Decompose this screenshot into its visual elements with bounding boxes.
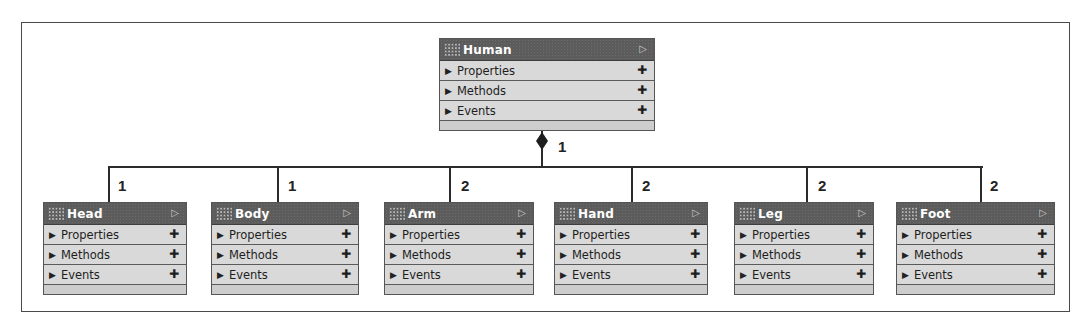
expand-icon[interactable]: ▶	[49, 230, 56, 240]
class-hand[interactable]: Hand ▷ ▶Properties✚ ▶Methods✚ ▶Events✚	[554, 202, 708, 295]
add-icon[interactable]: ✚	[690, 247, 700, 261]
collapse-icon[interactable]: ▷	[343, 207, 351, 218]
expand-icon[interactable]: ▶	[390, 250, 397, 260]
collapse-icon[interactable]: ▷	[518, 207, 526, 218]
section-events[interactable]: ▶Events✚	[897, 265, 1054, 285]
drag-grip-icon[interactable]	[739, 207, 755, 220]
section-label: Properties	[402, 228, 460, 242]
section-methods[interactable]: ▶Methods✚	[212, 245, 358, 265]
add-icon[interactable]: ✚	[637, 103, 647, 117]
expand-icon[interactable]: ▶	[740, 270, 747, 280]
add-icon[interactable]: ✚	[169, 267, 179, 281]
add-icon[interactable]: ✚	[856, 267, 866, 281]
class-header[interactable]: Hand ▷	[555, 203, 707, 225]
add-icon[interactable]: ✚	[516, 247, 526, 261]
add-icon[interactable]: ✚	[341, 247, 351, 261]
section-events[interactable]: ▶Events✚	[212, 265, 358, 285]
drag-grip-icon[interactable]	[444, 43, 460, 56]
class-human[interactable]: Human ▷ ▶Properties✚ ▶Methods✚ ▶Events✚	[439, 38, 655, 131]
section-label: Methods	[402, 248, 451, 262]
expand-icon[interactable]: ▶	[217, 230, 224, 240]
collapse-icon[interactable]: ▷	[1039, 207, 1047, 218]
class-head[interactable]: Head ▷ ▶Properties✚ ▶Methods✚ ▶Events✚	[43, 202, 187, 295]
section-events[interactable]: ▶Events✚	[385, 265, 533, 285]
add-icon[interactable]: ✚	[516, 267, 526, 281]
add-icon[interactable]: ✚	[169, 247, 179, 261]
add-icon[interactable]: ✚	[1037, 227, 1047, 241]
class-header[interactable]: Foot ▷	[897, 203, 1054, 225]
expand-icon[interactable]: ▶	[740, 250, 747, 260]
expand-icon[interactable]: ▶	[560, 250, 567, 260]
add-icon[interactable]: ✚	[690, 227, 700, 241]
add-icon[interactable]: ✚	[856, 227, 866, 241]
drag-grip-icon[interactable]	[216, 207, 232, 220]
section-properties[interactable]: ▶Properties✚	[555, 225, 707, 245]
composition-diamond-icon	[536, 132, 548, 150]
class-header[interactable]: Leg ▷	[735, 203, 873, 225]
add-icon[interactable]: ✚	[341, 267, 351, 281]
section-events[interactable]: ▶Events✚	[440, 101, 654, 121]
add-icon[interactable]: ✚	[1037, 247, 1047, 261]
section-methods[interactable]: ▶Methods✚	[897, 245, 1054, 265]
expand-icon[interactable]: ▶	[560, 230, 567, 240]
section-properties[interactable]: ▶Properties✚	[897, 225, 1054, 245]
expand-icon[interactable]: ▶	[49, 250, 56, 260]
expand-icon[interactable]: ▶	[902, 270, 909, 280]
hand-multiplicity: 2	[642, 177, 650, 194]
add-icon[interactable]: ✚	[637, 63, 647, 77]
expand-icon[interactable]: ▶	[445, 106, 452, 116]
section-label: Events	[229, 268, 268, 282]
drag-grip-icon[interactable]	[559, 207, 575, 220]
collapse-icon[interactable]: ▷	[171, 207, 179, 218]
class-body[interactable]: Body ▷ ▶Properties✚ ▶Methods✚ ▶Events✚	[211, 202, 359, 295]
section-properties[interactable]: ▶Properties✚	[735, 225, 873, 245]
expand-icon[interactable]: ▶	[560, 270, 567, 280]
drag-grip-icon[interactable]	[901, 207, 917, 220]
collapse-icon[interactable]: ▷	[858, 207, 866, 218]
expand-icon[interactable]: ▶	[902, 230, 909, 240]
section-label: Methods	[229, 248, 278, 262]
body-multiplicity: 1	[288, 177, 296, 194]
expand-icon[interactable]: ▶	[217, 250, 224, 260]
class-leg[interactable]: Leg ▷ ▶Properties✚ ▶Methods✚ ▶Events✚	[734, 202, 874, 295]
section-properties[interactable]: ▶Properties✚	[212, 225, 358, 245]
section-properties[interactable]: ▶Properties✚	[44, 225, 186, 245]
section-methods[interactable]: ▶Methods✚	[385, 245, 533, 265]
expand-icon[interactable]: ▶	[390, 230, 397, 240]
class-footer	[555, 285, 707, 294]
section-methods[interactable]: ▶Methods✚	[44, 245, 186, 265]
add-icon[interactable]: ✚	[341, 227, 351, 241]
class-header[interactable]: Human ▷	[440, 39, 654, 61]
collapse-icon[interactable]: ▷	[692, 207, 700, 218]
section-properties[interactable]: ▶Properties✚	[385, 225, 533, 245]
add-icon[interactable]: ✚	[856, 247, 866, 261]
add-icon[interactable]: ✚	[169, 227, 179, 241]
section-methods[interactable]: ▶Methods✚	[735, 245, 873, 265]
expand-icon[interactable]: ▶	[445, 86, 452, 96]
add-icon[interactable]: ✚	[690, 267, 700, 281]
expand-icon[interactable]: ▶	[902, 250, 909, 260]
section-methods[interactable]: ▶Methods✚	[440, 81, 654, 101]
add-icon[interactable]: ✚	[1037, 267, 1047, 281]
expand-icon[interactable]: ▶	[390, 270, 397, 280]
expand-icon[interactable]: ▶	[217, 270, 224, 280]
class-header[interactable]: Head ▷	[44, 203, 186, 225]
class-arm[interactable]: Arm ▷ ▶Properties✚ ▶Methods✚ ▶Events✚	[384, 202, 534, 295]
expand-icon[interactable]: ▶	[740, 230, 747, 240]
drag-grip-icon[interactable]	[389, 207, 405, 220]
expand-icon[interactable]: ▶	[445, 66, 452, 76]
add-icon[interactable]: ✚	[516, 227, 526, 241]
section-events[interactable]: ▶Events✚	[44, 265, 186, 285]
section-events[interactable]: ▶Events✚	[555, 265, 707, 285]
section-methods[interactable]: ▶Methods✚	[555, 245, 707, 265]
section-properties[interactable]: ▶Properties✚	[440, 61, 654, 81]
expand-icon[interactable]: ▶	[49, 270, 56, 280]
drag-grip-icon[interactable]	[48, 207, 64, 220]
collapse-icon[interactable]: ▷	[639, 43, 647, 54]
section-events[interactable]: ▶Events✚	[735, 265, 873, 285]
class-header[interactable]: Body ▷	[212, 203, 358, 225]
class-foot[interactable]: Foot ▷ ▶Properties✚ ▶Methods✚ ▶Events✚	[896, 202, 1055, 295]
class-header[interactable]: Arm ▷	[385, 203, 533, 225]
class-title: Arm	[408, 207, 436, 221]
add-icon[interactable]: ✚	[637, 83, 647, 97]
